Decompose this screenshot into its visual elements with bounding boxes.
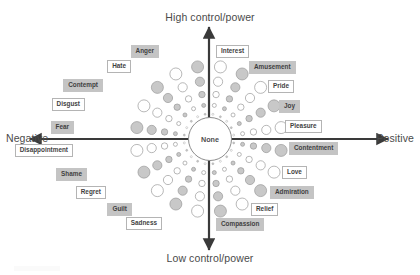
emotion-label-joy[interactable]: Joy (279, 100, 300, 113)
emotion-label-pride[interactable]: Pride (268, 80, 294, 93)
spoke-hate (170, 68, 199, 118)
emotion-label-interest[interactable]: Interest (216, 45, 249, 58)
emotion-label-anger[interactable]: Anger (131, 45, 159, 58)
spoke-guilt (170, 160, 199, 210)
emotion-label-compassion[interactable]: Compassion (216, 218, 264, 231)
emotion-label-shame[interactable]: Shame (56, 168, 87, 181)
spoke-amusement (219, 68, 248, 118)
emotion-label-amusement[interactable]: Amusement (249, 61, 296, 74)
emotion-label-contempt[interactable]: Contempt (63, 79, 103, 92)
spoke-disgust (138, 100, 188, 129)
emotion-label-hate[interactable]: Hate (107, 60, 131, 73)
emotion-label-pleasure[interactable]: Pleasure (285, 120, 322, 133)
spoke-shame (138, 149, 188, 178)
emotion-label-guilt[interactable]: Guilt (107, 203, 132, 216)
emotion-label-fear[interactable]: Fear (51, 121, 75, 134)
emotion-label-regret[interactable]: Regret (76, 186, 106, 199)
spoke-relief (219, 160, 248, 210)
emotion-label-disappointment[interactable]: Disappointment (15, 144, 73, 157)
emotion-label-sadness[interactable]: Sadness (126, 217, 162, 230)
axis-label-high-control: High control/power (165, 11, 254, 23)
axis-label-negative: Negative (6, 132, 48, 144)
emotion-label-disgust[interactable]: Disgust (52, 98, 85, 111)
emotion-label-love[interactable]: Love (282, 166, 307, 179)
center-label: None (201, 135, 219, 144)
page-artifact (14, 266, 60, 271)
axis-label-low-control: Low control/power (167, 252, 254, 264)
emotion-wheel-diagram: None High control/power Low control/powe… (0, 0, 420, 275)
center-node[interactable]: None (188, 117, 232, 161)
emotion-label-relief[interactable]: Relief (251, 203, 278, 216)
emotion-label-admiration[interactable]: Admiration (270, 186, 314, 199)
spoke-joy (230, 100, 280, 129)
spoke-love (230, 149, 280, 178)
emotion-label-contentment[interactable]: Contentment (289, 142, 338, 155)
axis-label-positive: Positive (376, 132, 414, 144)
